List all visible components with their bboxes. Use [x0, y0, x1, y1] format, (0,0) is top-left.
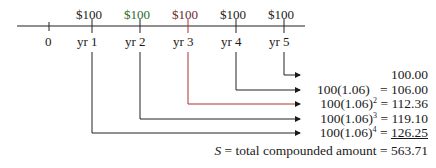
- year-label-yr2: yr 2: [125, 35, 146, 49]
- amount-row-yr1: 100(1.06)4 = 126.25: [304, 126, 428, 140]
- total-row: S = total compounded amount = 563.71: [214, 143, 428, 159]
- year-label-yr4: yr 4: [221, 35, 242, 49]
- payment-label-yr4: $100: [220, 8, 246, 22]
- amount-value: 112.36: [391, 96, 428, 111]
- arrow-yr1: [92, 52, 300, 133]
- amount-value: 100.00: [391, 67, 428, 82]
- arrow-yr3: [188, 52, 300, 104]
- year-label-yr3: yr 3: [173, 35, 194, 49]
- total-symbol: S: [214, 143, 221, 158]
- year-label-0: 0: [45, 35, 52, 49]
- payment-label-yr1: $100: [76, 8, 102, 22]
- payment-label-yr3: $100: [172, 8, 198, 22]
- amount-row-yr4: 100(1.06) = 106.00: [304, 83, 428, 97]
- year-label-yr5: yr 5: [269, 35, 290, 49]
- amount-value: 106.00: [391, 82, 428, 97]
- arrow-yr2: [140, 52, 300, 119]
- total-label: = total compounded amount =: [225, 143, 388, 158]
- amount-value: 119.10: [391, 111, 428, 126]
- payment-label-yr5: $100: [268, 8, 294, 22]
- arrow-yr5: [284, 52, 300, 75]
- amount-value: 126.25: [391, 125, 428, 140]
- year-label-yr1: yr 1: [77, 35, 98, 49]
- amount-row-yr3: 100(1.06)2 = 112.36: [304, 97, 428, 111]
- amount-row-yr2: 100(1.06)3 = 119.10: [304, 112, 428, 126]
- arrow-yr4: [236, 52, 300, 90]
- payment-label-yr2: $100: [124, 8, 150, 22]
- amount-row-yr5: 100.00: [304, 68, 428, 82]
- total-value: 563.71: [391, 143, 428, 158]
